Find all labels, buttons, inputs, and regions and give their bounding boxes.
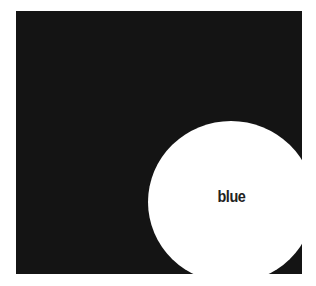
circle-label: blue (217, 187, 245, 207)
white-circle: blue (148, 121, 314, 283)
dark-square: blue (16, 11, 302, 274)
